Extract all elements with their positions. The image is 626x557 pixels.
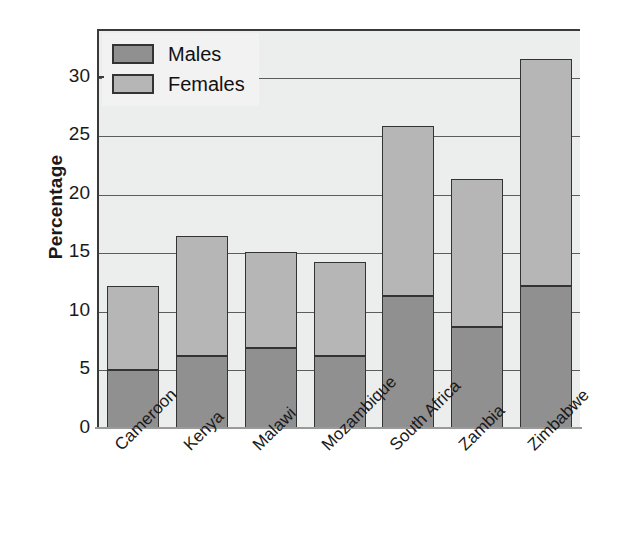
bar-segment-females[interactable] (245, 252, 297, 348)
stacked-bar-chart: Percentage 051015202530 Males Females Ca… (0, 0, 626, 557)
bar-group[interactable] (382, 31, 434, 429)
legend-item-males: Males (112, 39, 245, 69)
bar-group[interactable] (520, 31, 572, 429)
legend-label-females: Females (168, 73, 245, 96)
legend-item-females: Females (112, 69, 245, 99)
males-swatch-icon (112, 44, 154, 64)
bar-group[interactable] (314, 31, 366, 429)
bar-segment-females[interactable] (176, 236, 228, 357)
bar-segment-females[interactable] (107, 286, 159, 370)
y-tick-label-20: 20 (50, 182, 90, 204)
chart-legend: Males Females (102, 33, 259, 106)
y-tick-label-15: 15 (50, 240, 90, 262)
bar-segment-females[interactable] (314, 262, 366, 357)
legend-label-males: Males (168, 43, 221, 66)
bar-segment-females[interactable] (520, 59, 572, 286)
bar-segment-females[interactable] (451, 179, 503, 328)
y-tick-mark-30 (97, 76, 104, 78)
bar-segment-females[interactable] (382, 126, 434, 296)
females-swatch-icon (112, 74, 154, 94)
y-tick-label-10: 10 (50, 299, 90, 321)
y-axis-tick-labels: 051015202530 (40, 0, 90, 557)
y-tick-label-5: 5 (50, 357, 90, 379)
bar-group[interactable] (451, 31, 503, 429)
y-tick-label-25: 25 (50, 123, 90, 145)
y-tick-label-0: 0 (50, 416, 90, 438)
y-tick-label-30: 30 (50, 65, 90, 87)
